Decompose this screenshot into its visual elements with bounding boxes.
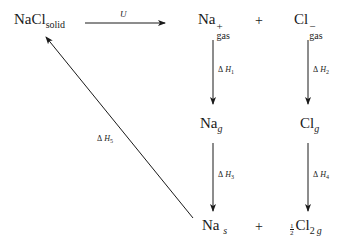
na-ion-base: Na: [198, 11, 216, 27]
dh5-sub: 5: [110, 138, 113, 144]
cl-ion-script: −gas: [309, 22, 322, 40]
label-u: U: [120, 10, 127, 19]
node-half-cl2-g: 12Cl2g: [290, 218, 322, 236]
na-s-base: Na: [202, 217, 220, 233]
cl2-base: Cl: [296, 217, 310, 233]
label-dh2: Δ H2: [313, 66, 329, 75]
dh1-delta: Δ: [218, 65, 223, 74]
nacl-sub: solid: [46, 19, 65, 30]
cl-ion-sub: gas: [309, 31, 322, 40]
nacl-base: NaCl: [14, 11, 46, 27]
dh3-delta: Δ: [218, 170, 223, 179]
na-ion-script: +gas: [217, 22, 230, 40]
node-na-s: Na s: [202, 218, 227, 236]
label-dh1: Δ H1: [218, 66, 234, 75]
node-na-g: Nag: [200, 116, 223, 134]
cl-g-base: Cl: [300, 115, 314, 131]
dh4-sub: 4: [326, 174, 329, 180]
na-g-base: Na: [200, 115, 218, 131]
cl-ion-base: Cl: [294, 11, 308, 27]
dh2-delta: Δ: [313, 65, 318, 74]
arrows-layer: [0, 0, 344, 247]
dh3-sub: 3: [231, 174, 234, 180]
frac-den: 2: [290, 230, 294, 236]
arrow-dh5: [46, 37, 193, 218]
plus-bottom: +: [255, 220, 263, 234]
label-dh4: Δ H4: [313, 171, 329, 180]
node-na-gas-ion: Na+gas: [198, 12, 230, 40]
na-g-sub: g: [218, 123, 223, 134]
label-u-text: U: [120, 9, 127, 19]
plus-top: +: [255, 14, 263, 28]
cl2-sub-2: 2: [310, 225, 315, 236]
na-s-sub: s: [223, 225, 227, 236]
dh5-delta: Δ: [97, 134, 102, 143]
dh1-sub: 1: [231, 69, 234, 75]
node-cl-g: Clg: [300, 116, 319, 134]
dh4-delta: Δ: [313, 170, 318, 179]
label-dh3: Δ H3: [218, 171, 234, 180]
cl2-sub-g: g: [317, 225, 322, 236]
node-nacl-solid: NaClsolid: [14, 12, 65, 30]
node-cl-gas-ion: Cl−gas: [294, 12, 323, 40]
fraction-half: 12: [290, 223, 294, 236]
na-ion-sub: gas: [217, 31, 230, 40]
cl-g-sub: g: [314, 123, 319, 134]
dh2-sub: 2: [326, 69, 329, 75]
label-dh5: Δ H5: [97, 135, 113, 144]
